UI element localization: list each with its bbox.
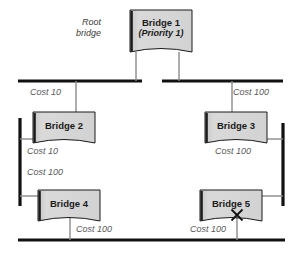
- cost-b4-bottom: Cost 100: [76, 224, 112, 234]
- diagram-canvas: [0, 0, 297, 256]
- bridge-2-body: [33, 112, 95, 143]
- cost-b2-left: Cost 10: [27, 146, 58, 156]
- bridge-5-body: [200, 190, 262, 221]
- root-bridge-note-line-1: Root: [76, 17, 101, 28]
- bridge-3-body: [205, 112, 267, 143]
- root-bridge-note-line-2: bridge: [76, 28, 101, 39]
- root-bridge-note: Rootbridge: [76, 17, 101, 39]
- bridge-1-body: [130, 10, 192, 52]
- bridge-1: [130, 10, 192, 52]
- bridge-5: [200, 190, 262, 221]
- cost-b1-b3: Cost 100: [233, 87, 269, 97]
- cost-b1-b2: Cost 10: [30, 87, 61, 97]
- cost-b5-bottom: Cost 100: [190, 224, 226, 234]
- bridge-shapes: [33, 10, 267, 221]
- bridge-3: [205, 112, 267, 143]
- bridge-4-body: [38, 190, 100, 221]
- cost-b4-left: Cost 100: [27, 167, 63, 177]
- cost-b3-right: Cost 100: [215, 146, 251, 156]
- bridge-2: [33, 112, 95, 143]
- bridge-topology-diagram: Bridge 1(Priority 1)Bridge 2Bridge 3Brid…: [0, 0, 297, 256]
- bridge-4: [38, 190, 100, 221]
